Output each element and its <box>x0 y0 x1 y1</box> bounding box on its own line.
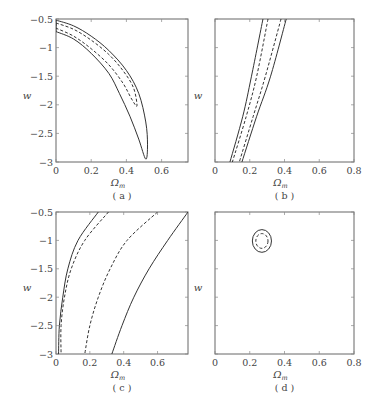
panel-b: 00.20.40.60.8wΩm( b ) <box>194 19 362 201</box>
y-tick-label: −0.5 <box>30 207 53 218</box>
panel-d: 00.20.40.60.8wΩm( d ) <box>194 212 362 393</box>
plot-frame <box>215 212 354 354</box>
x-axis-label: Ωm <box>110 369 125 382</box>
y-axis-label: w <box>23 90 32 101</box>
x-tick-label: 0 <box>212 165 218 176</box>
y-tick-label: −1 <box>39 235 53 246</box>
panel-a: 00.20.40.6−0.5−1−1.5−2−2.5−3wΩm( a ) <box>23 14 188 202</box>
x-tick-label: 0.6 <box>150 357 165 368</box>
x-tick-label: 0.6 <box>154 165 169 176</box>
x-tick-label: 0.4 <box>119 165 134 176</box>
y-axis-label: w <box>23 282 32 293</box>
x-tick-label: 0.2 <box>242 357 257 368</box>
y-tick-label: −3 <box>39 349 53 360</box>
x-tick-label: 0.2 <box>242 165 257 176</box>
x-tick-label: 0.6 <box>312 165 327 176</box>
y-axis-label: w <box>194 90 203 101</box>
contour-line <box>61 212 109 354</box>
x-axis-label: Ωm <box>272 177 287 190</box>
y-tick-label: −0.5 <box>30 14 53 25</box>
contour-ellipse <box>256 234 268 249</box>
y-tick-label: −1.5 <box>30 263 53 274</box>
y-tick-label: −2.5 <box>30 128 53 139</box>
y-tick-label: −3 <box>39 157 53 168</box>
contour-line <box>85 212 158 354</box>
contour-line <box>112 212 188 354</box>
x-tick-label: 0.8 <box>346 165 361 176</box>
contour-line <box>59 212 99 354</box>
x-tick-label: 0.6 <box>312 357 327 368</box>
y-tick-label: −2 <box>39 99 53 110</box>
x-tick-label: 0 <box>212 357 218 368</box>
panel-caption: ( a ) <box>112 190 131 201</box>
y-axis-label: w <box>194 282 203 293</box>
x-tick-label: 0.4 <box>116 357 131 368</box>
contour-line <box>239 19 281 162</box>
x-tick-label: 0.2 <box>84 165 99 176</box>
x-tick-label: 0.8 <box>346 357 361 368</box>
panel-caption: ( c ) <box>113 382 132 393</box>
contour-ellipse <box>252 230 271 253</box>
panel-c: 00.20.40.6−0.5−1−1.5−2−2.5−3wΩm( c ) <box>23 207 188 394</box>
contour-line <box>232 19 268 162</box>
x-tick-label: 0 <box>53 357 59 368</box>
x-tick-label: 0.2 <box>82 357 97 368</box>
y-tick-label: −1.5 <box>30 71 53 82</box>
y-tick-label: −2.5 <box>30 320 53 331</box>
panel-caption: ( d ) <box>275 382 295 393</box>
x-tick-label: 0.4 <box>277 165 292 176</box>
figure-canvas: 00.20.40.6−0.5−1−1.5−2−2.5−3wΩm( a )00.2… <box>0 0 375 407</box>
y-tick-label: −1 <box>39 42 53 53</box>
panel-caption: ( b ) <box>275 190 295 201</box>
contour-line <box>56 23 137 106</box>
plot-frame <box>56 212 188 354</box>
y-tick-label: −2 <box>39 292 53 303</box>
x-tick-label: 0.4 <box>277 357 292 368</box>
x-tick-label: 0 <box>53 165 59 176</box>
x-axis-label: Ωm <box>110 177 125 190</box>
contour-line <box>230 19 263 162</box>
x-axis-label: Ωm <box>272 369 287 382</box>
